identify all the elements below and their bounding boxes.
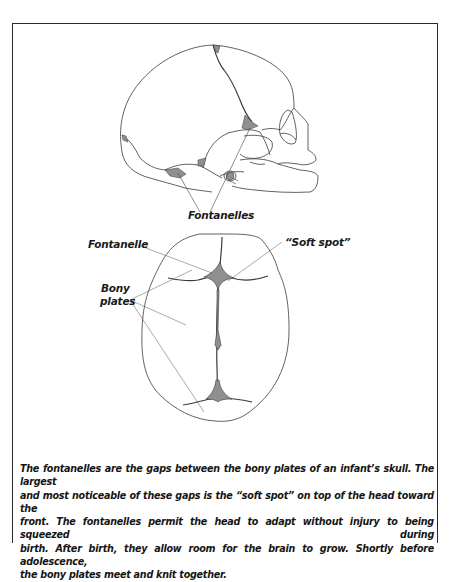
label-fontanelles: Fontanelles: [188, 209, 254, 221]
caption-line: The fontanelles are the gaps between the…: [20, 462, 434, 489]
figure-caption: The fontanelles are the gaps between the…: [20, 462, 434, 582]
label-soft-spot: “Soft spot”: [285, 236, 350, 248]
label-bony-plates-line2: plates: [100, 295, 135, 307]
caption-line: the bony plates meet and knit together.: [20, 568, 434, 581]
top-view-fontanelles: [204, 262, 234, 402]
caption-line: front. The fontanelles permit the head t…: [20, 515, 434, 542]
side-view-skull: [121, 45, 318, 192]
caption-line: and most noticeable of these gaps is the…: [20, 489, 434, 516]
caption-line: birth. After birth, they allow room for …: [20, 542, 434, 569]
side-view-leader-lines: [178, 128, 250, 212]
label-bony-plates-line1: Bony: [101, 282, 130, 294]
label-fontanelle: Fontanelle: [88, 238, 148, 250]
